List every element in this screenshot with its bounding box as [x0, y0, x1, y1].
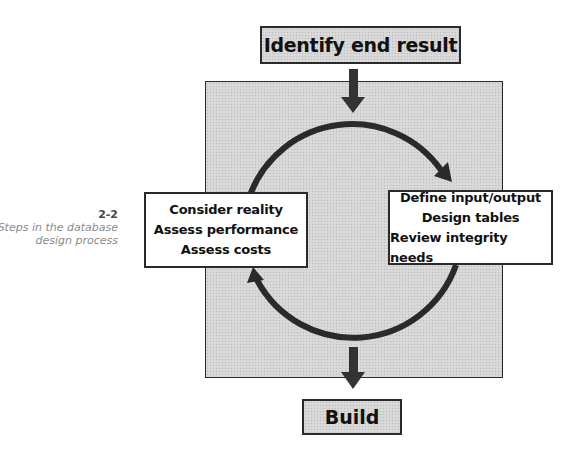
design-step-box: Define input/output Design tables Review… — [388, 190, 553, 265]
evaluate-item-3: Assess costs — [181, 240, 271, 260]
design-item-2: Design tables — [422, 208, 520, 228]
figure-caption: 2-2 Steps in the database design process — [0, 208, 118, 247]
caption-line-2: design process — [0, 234, 118, 247]
evaluate-item-2: Assess performance — [154, 220, 298, 240]
figure-number: 2-2 — [0, 208, 118, 221]
start-step-box: Identify end result — [260, 26, 461, 64]
end-step-box: Build — [302, 399, 402, 435]
evaluate-step-box: Consider reality Assess performance Asse… — [144, 192, 308, 268]
caption-line-1: Steps in the database — [0, 221, 118, 234]
design-item-3: Review integrity needs — [390, 228, 551, 268]
start-step-label: Identify end result — [264, 34, 458, 56]
design-item-1: Define input/output — [400, 188, 541, 208]
evaluate-item-1: Consider reality — [169, 200, 282, 220]
end-step-label: Build — [325, 406, 380, 428]
